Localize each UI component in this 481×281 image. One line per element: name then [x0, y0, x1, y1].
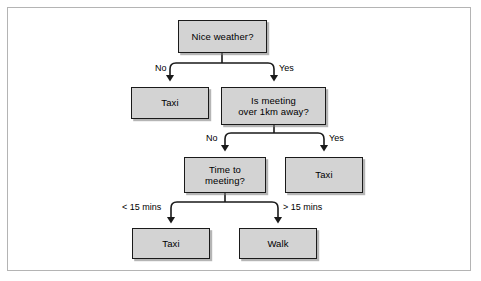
node-walk-label: Walk — [265, 238, 290, 250]
flowchart-figure: Nice weather? Taxi Is meeting over 1km a… — [0, 0, 481, 281]
node-taxi-bad-weather-label: Taxi — [159, 97, 180, 109]
edge-weather-no — [170, 63, 222, 79]
edge-time-less — [171, 202, 225, 221]
edge-distance-yes — [274, 133, 324, 149]
edge-label-weather-no: No — [155, 63, 167, 73]
node-walk[interactable]: Walk — [239, 228, 317, 259]
node-time-to-meeting[interactable]: Time to meeting? — [184, 157, 266, 193]
node-is-meeting-over-1km-line2: over 1km away? — [236, 106, 311, 118]
edge-distance-no — [225, 133, 274, 149]
node-is-meeting-over-1km-line1: Is meeting — [249, 95, 298, 107]
node-taxi-short-time[interactable]: Taxi — [132, 228, 210, 259]
node-time-to-meeting-line1: Time to — [207, 164, 243, 176]
edge-label-time-less: < 15 mins — [122, 202, 161, 212]
node-nice-weather-label: Nice weather? — [189, 31, 255, 43]
node-taxi-short-time-label: Taxi — [160, 238, 181, 250]
edge-label-distance-no: No — [206, 133, 218, 143]
edge-label-weather-yes: Yes — [279, 63, 294, 73]
node-is-meeting-over-1km[interactable]: Is meeting over 1km away? — [221, 87, 326, 125]
node-taxi-bad-weather[interactable]: Taxi — [131, 87, 209, 119]
node-time-to-meeting-line2: meeting? — [203, 175, 247, 187]
node-nice-weather[interactable]: Nice weather? — [178, 20, 267, 53]
edge-time-more — [225, 202, 278, 221]
edge-label-distance-yes: Yes — [329, 133, 344, 143]
edge-label-time-more: > 15 mins — [283, 202, 322, 212]
node-taxi-far[interactable]: Taxi — [285, 157, 363, 193]
edge-weather-yes — [222, 63, 274, 79]
node-taxi-far-label: Taxi — [313, 169, 334, 181]
